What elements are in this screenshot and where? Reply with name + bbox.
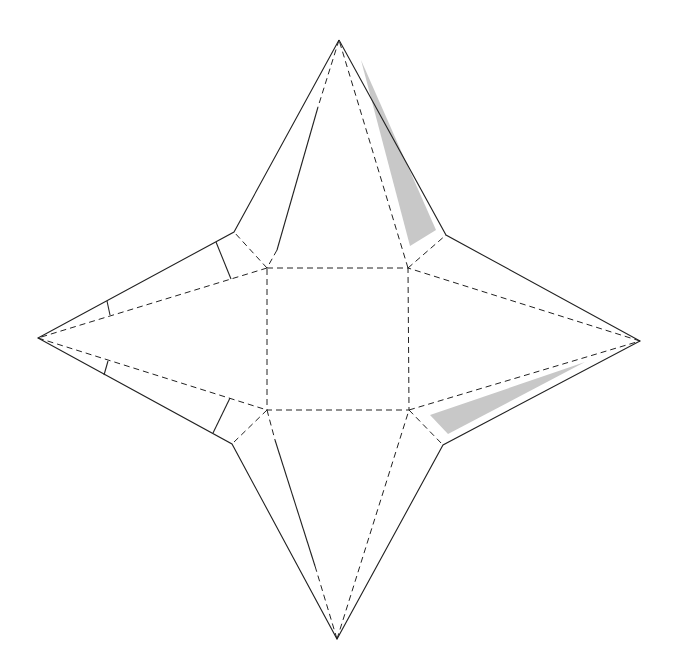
top-right-glue-flap <box>361 60 436 246</box>
pyramid-net-diagram <box>0 0 677 661</box>
base-square <box>267 268 409 410</box>
tab-folds <box>232 232 446 445</box>
outer-outline <box>38 40 640 639</box>
bottom-right-glue-flap <box>430 362 585 434</box>
tick-marks <box>104 242 231 433</box>
fold-lines <box>38 40 640 639</box>
